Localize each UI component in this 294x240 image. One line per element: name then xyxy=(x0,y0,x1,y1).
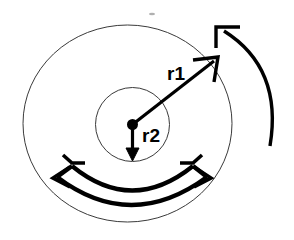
speck-artifact xyxy=(149,13,155,15)
rotation-diagram-svg: r1 r2 xyxy=(0,0,294,240)
label-r2: r2 xyxy=(142,125,160,146)
diagram-canvas: r1 r2 xyxy=(0,0,294,240)
bottom-outer-left-arrowhead xyxy=(53,167,70,187)
center-dot xyxy=(127,119,138,130)
rotation-arc-curve xyxy=(224,31,272,146)
r2-arrowhead xyxy=(126,148,139,161)
label-r1: r1 xyxy=(167,63,185,84)
bottom-inner-right-arrowhead xyxy=(180,155,202,163)
bottom-inner-arc xyxy=(72,166,193,191)
bottom-arc-double-arrow xyxy=(53,155,211,205)
rotation-arc-arrowhead xyxy=(216,27,240,48)
bottom-inner-left-arrowhead xyxy=(63,155,85,163)
bottom-outer-right-arrowhead xyxy=(194,167,211,187)
